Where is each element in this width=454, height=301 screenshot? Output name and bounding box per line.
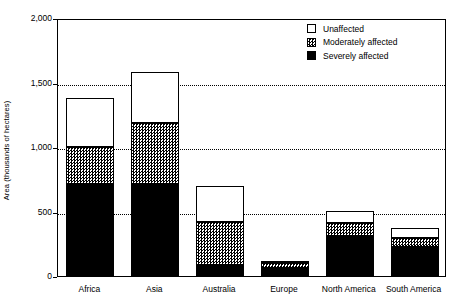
- y-tick-mark-0: [53, 277, 57, 278]
- bar-segment-severely-affected: [261, 268, 309, 276]
- legend-label: Unaffected: [323, 24, 364, 34]
- bar-north-america[interactable]: [326, 211, 374, 276]
- bar-segment-unaffected: [261, 261, 309, 263]
- y-tick-label-2000: 2,000: [6, 14, 52, 23]
- gridline-1000: [58, 149, 445, 150]
- legend-swatch-white: [307, 24, 316, 33]
- legend-swatch-black: [307, 51, 316, 60]
- y-tick-label-0: 0: [6, 272, 52, 281]
- bar-segment-moderately-affected: [261, 263, 309, 268]
- bar-segment-moderately-affected: [196, 222, 244, 265]
- x-tick-label-asia: Asia: [122, 284, 187, 294]
- bar-segment-severely-affected: [326, 236, 374, 276]
- bar-segment-severely-affected: [131, 184, 179, 276]
- bar-segment-unaffected: [131, 72, 179, 122]
- bar-segment-moderately-affected: [66, 147, 114, 184]
- gridline-1500: [58, 85, 445, 86]
- y-tick-label-1000: 1,000: [6, 143, 52, 152]
- y-tick-label-500: 500: [6, 208, 52, 217]
- bar-australia[interactable]: [196, 186, 244, 276]
- bar-segment-unaffected: [391, 228, 439, 238]
- bar-segment-severely-affected: [391, 247, 439, 276]
- bar-segment-severely-affected: [196, 265, 244, 276]
- legend-label: Moderately affected: [323, 37, 398, 47]
- bar-segment-moderately-affected: [391, 238, 439, 247]
- x-tick-label-south-america: South America: [381, 284, 446, 294]
- bar-segment-severely-affected: [66, 184, 114, 276]
- chart-legend: UnaffectedModerately affectedSeverely af…: [307, 23, 398, 61]
- bar-segment-unaffected: [196, 186, 244, 222]
- bar-segment-moderately-affected: [131, 123, 179, 185]
- bar-europe[interactable]: [261, 261, 309, 276]
- bar-africa[interactable]: [66, 98, 114, 276]
- bar-segment-unaffected: [326, 211, 374, 223]
- legend-swatch-checker: [307, 38, 316, 47]
- gridline-500: [58, 214, 445, 215]
- bar-segment-moderately-affected: [326, 223, 374, 236]
- x-tick-label-europe: Europe: [252, 284, 317, 294]
- x-tick-label-north-america: North America: [316, 284, 381, 294]
- legend-item-severely-affected[interactable]: Severely affected: [307, 50, 398, 61]
- bar-south-america[interactable]: [391, 228, 439, 276]
- y-tick-label-1500: 1,500: [6, 79, 52, 88]
- bar-segment-unaffected: [66, 98, 114, 147]
- bar-asia[interactable]: [131, 72, 179, 276]
- legend-item-moderately-affected[interactable]: Moderately affected: [307, 37, 398, 48]
- x-tick-label-australia: Australia: [187, 284, 252, 294]
- stacked-bar-chart: Area (thousands of hectares) 05001,0001,…: [0, 0, 454, 301]
- legend-item-unaffected[interactable]: Unaffected: [307, 23, 398, 34]
- x-tick-label-africa: Africa: [57, 284, 122, 294]
- legend-label: Severely affected: [323, 51, 389, 61]
